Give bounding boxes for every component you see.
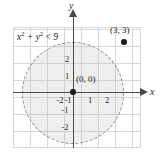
y-tick-label-pos1: 1 — [61, 71, 73, 81]
y-axis-label: y — [69, 0, 73, 11]
x-tick-label-neg1: -1 — [62, 95, 74, 105]
origin-point-label: (0, 0) — [76, 74, 96, 84]
y-tick-label-pos2: 2 — [61, 54, 73, 64]
y-tick-label-neg1: -1 — [59, 105, 71, 115]
x-axis-line — [13, 92, 142, 93]
x-tick-label-pos2: 2 — [101, 95, 113, 105]
x-axis-label: x — [150, 86, 154, 97]
point-3-3-dot — [121, 39, 127, 45]
x-axis-arrow-icon — [140, 88, 148, 96]
inequality-label: x2 + y2 < 9 — [17, 30, 58, 42]
y-axis-line — [73, 14, 74, 148]
point-3-3-label: (3, 3) — [110, 25, 130, 35]
graph-figure: x y -2 -1 1 2 2 1 -1 -2 (0, 0) (3, 3) x2… — [0, 0, 161, 163]
x-tick-label-pos1: 1 — [84, 95, 96, 105]
y-tick-label-neg2: -2 — [59, 122, 71, 132]
origin-point-dot — [70, 89, 76, 95]
inequality-text: x2 + y2 < 9 — [17, 32, 58, 42]
